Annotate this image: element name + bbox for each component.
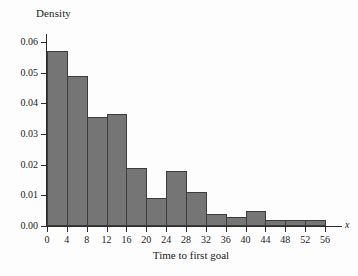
x-tick-mark bbox=[87, 227, 88, 232]
x-tick-mark bbox=[47, 227, 48, 232]
x-axis-label: Time to first goal bbox=[47, 249, 335, 262]
x-tick-label: 52 bbox=[295, 234, 315, 245]
histogram-bar bbox=[146, 198, 167, 226]
x-tick-mark bbox=[265, 227, 266, 232]
x-tick-label: 44 bbox=[255, 234, 275, 245]
x-tick-label: 16 bbox=[116, 234, 136, 245]
x-tick-mark bbox=[285, 227, 286, 232]
histogram-bar bbox=[107, 114, 128, 226]
x-tick-mark bbox=[166, 227, 167, 232]
x-tick-label: 40 bbox=[236, 234, 256, 245]
x-tick-label: 4 bbox=[57, 234, 77, 245]
x-tick-mark bbox=[305, 227, 306, 232]
histogram-bar bbox=[67, 76, 88, 226]
x-tick-mark bbox=[226, 227, 227, 232]
x-tick-mark bbox=[126, 227, 127, 232]
y-tick-label: 0.06 bbox=[4, 37, 38, 47]
x-tick-mark bbox=[206, 227, 207, 232]
histogram-bar bbox=[226, 217, 247, 226]
x-tick-mark bbox=[325, 227, 326, 232]
histogram-bar bbox=[206, 214, 227, 226]
y-axis-label: Density bbox=[36, 7, 71, 20]
histogram-bar bbox=[265, 220, 286, 226]
x-tick-mark bbox=[146, 227, 147, 232]
x-tick-label: 56 bbox=[315, 234, 335, 245]
histogram-figure: Density 0.000.010.020.030.040.050.06 048… bbox=[0, 0, 358, 276]
y-tick-label: 0.04 bbox=[4, 98, 38, 108]
histogram-bar bbox=[126, 168, 147, 226]
histogram-bar bbox=[166, 171, 187, 226]
x-tick-label: 12 bbox=[97, 234, 117, 245]
x-tick-label: 36 bbox=[216, 234, 236, 245]
x-tick-mark bbox=[107, 227, 108, 232]
histogram-bar bbox=[47, 51, 68, 226]
y-tick-label: 0.03 bbox=[4, 129, 38, 139]
x-variable-symbol: x bbox=[345, 219, 349, 230]
x-tick-mark bbox=[186, 227, 187, 232]
x-tick-label: 28 bbox=[176, 234, 196, 245]
x-axis-line bbox=[46, 226, 342, 227]
x-tick-label: 24 bbox=[156, 234, 176, 245]
x-tick-label: 0 bbox=[37, 234, 57, 245]
x-tick-label: 48 bbox=[275, 234, 295, 245]
y-tick-label: 0.05 bbox=[4, 68, 38, 78]
x-tick-label: 20 bbox=[136, 234, 156, 245]
x-tick-label: 8 bbox=[77, 234, 97, 245]
y-tick-label: 0.02 bbox=[4, 160, 38, 170]
y-tick-label: 0.01 bbox=[4, 190, 38, 200]
histogram-bar bbox=[246, 211, 267, 226]
histogram-bar bbox=[285, 220, 306, 226]
x-tick-mark bbox=[67, 227, 68, 232]
y-tick-label: 0.00 bbox=[4, 221, 38, 231]
histogram-bar bbox=[305, 220, 326, 226]
x-tick-label: 32 bbox=[196, 234, 216, 245]
histogram-bar bbox=[186, 192, 207, 226]
x-tick-mark bbox=[246, 227, 247, 232]
histogram-bar bbox=[87, 117, 108, 226]
plot-area bbox=[47, 42, 335, 226]
